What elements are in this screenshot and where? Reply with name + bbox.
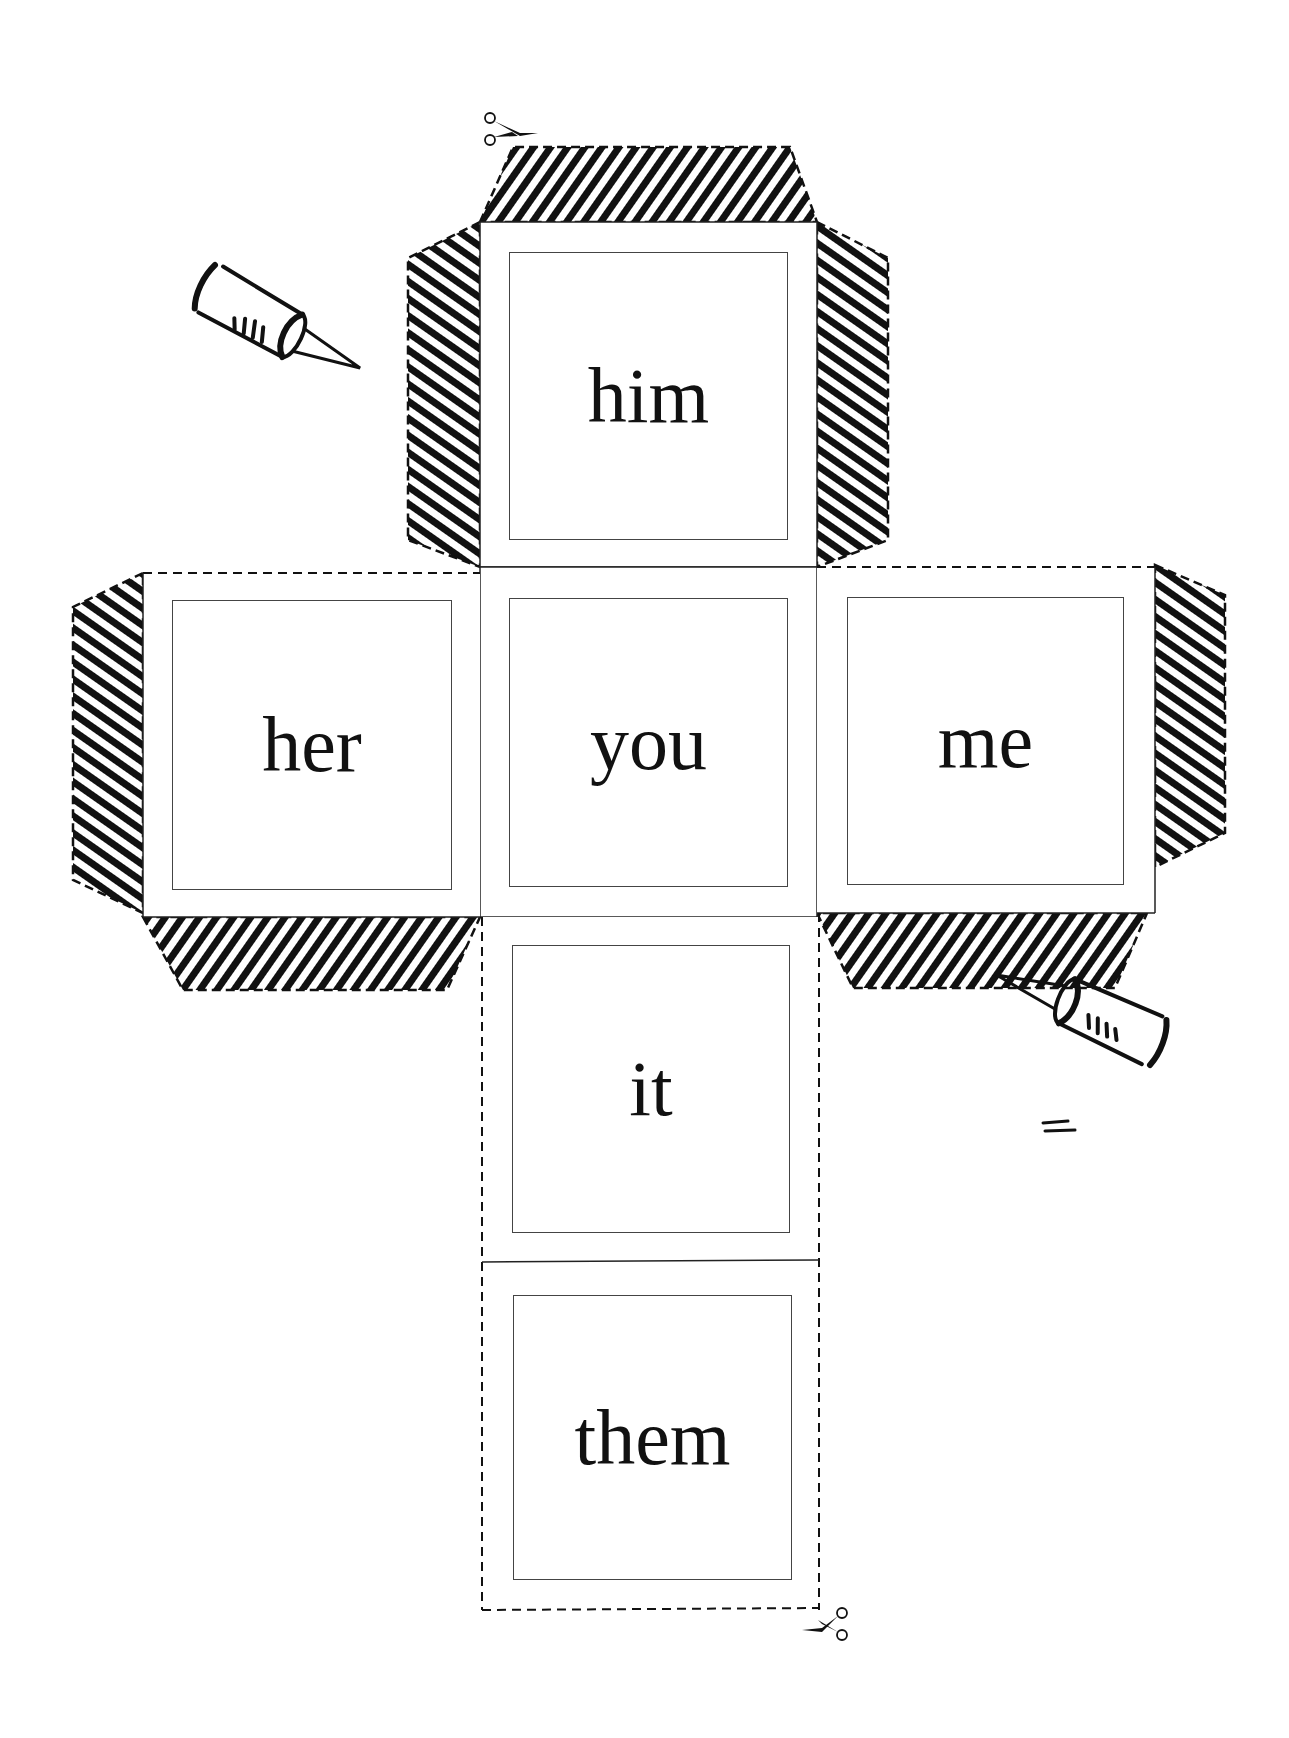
- glue-tab-left: [73, 573, 143, 913]
- glue-tab-right-bottom: [817, 913, 1147, 988]
- face-word: her: [262, 706, 362, 784]
- glue-tab-top: [480, 147, 817, 222]
- face-bottom-it: it: [512, 945, 790, 1233]
- glue-bottle-icon-top-left: [188, 261, 375, 389]
- face-word: you: [590, 704, 707, 782]
- face-bottom-them: them: [513, 1295, 792, 1580]
- face-center-you: you: [509, 598, 788, 887]
- face-right-me: me: [847, 597, 1124, 885]
- glue-tab-top-right: [817, 222, 888, 567]
- glue-tab-right: [1155, 565, 1225, 867]
- scissors-icon-top: [485, 113, 538, 145]
- face-word: him: [588, 357, 709, 435]
- glue-tab-left-bottom: [143, 917, 480, 990]
- face-word: me: [938, 702, 1033, 780]
- face-top-him: him: [509, 252, 788, 540]
- scissors-icon-bottom: [802, 1608, 847, 1640]
- glue-tab-top-left: [408, 222, 480, 567]
- motion-lines-icon: [1043, 1121, 1075, 1131]
- face-left-her: her: [172, 600, 452, 890]
- face-word: it: [629, 1050, 672, 1128]
- face-word: them: [575, 1399, 731, 1477]
